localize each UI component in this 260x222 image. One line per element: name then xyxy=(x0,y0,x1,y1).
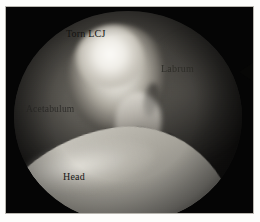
arrow-marker-icon xyxy=(239,61,253,83)
photo-field: Torn LCJ Labrum Acetabulum Head xyxy=(6,7,253,213)
torn-ligament-upper-lobe xyxy=(76,26,144,90)
image-frame: Torn LCJ Labrum Acetabulum Head xyxy=(5,6,254,214)
arthroscope-circular-view xyxy=(14,11,242,213)
arthroscopy-figure: Torn LCJ Labrum Acetabulum Head xyxy=(0,0,260,222)
